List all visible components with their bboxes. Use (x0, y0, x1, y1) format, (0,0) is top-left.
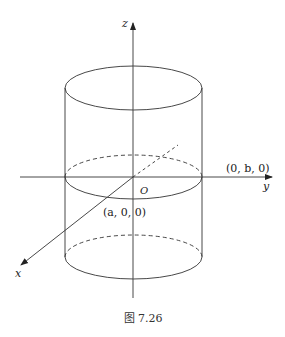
x-axis (21, 177, 133, 265)
z-axis-label: z (121, 17, 128, 30)
top-ellipse (65, 66, 202, 110)
figure-caption: 图 7.26 (124, 312, 163, 325)
x-axis-label: x (15, 267, 22, 280)
middle-ellipse-back (65, 155, 202, 177)
bottom-ellipse-front (65, 257, 202, 279)
middle-ellipse-front (65, 177, 202, 199)
bottom-ellipse-back (65, 235, 202, 257)
y-axis-label: y (262, 180, 270, 193)
point-a-0-0-label: (a, 0, 0) (103, 206, 146, 219)
point-0-b-0-label: (0, b, 0) (226, 162, 270, 175)
cylinder-diagram: z y x O (0, b, 0) (a, 0, 0) 图 7.26 (0, 0, 285, 337)
origin-label: O (140, 185, 148, 196)
x-axis-hidden (133, 145, 178, 177)
